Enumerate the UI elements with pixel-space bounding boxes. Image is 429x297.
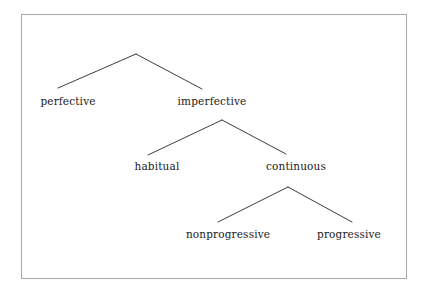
tree-node-continuous: continuous <box>266 160 326 172</box>
tree-node-imperfective: imperfective <box>178 95 247 107</box>
tree-node-habitual: habitual <box>135 160 180 172</box>
tree-node-nonprogressive: nonprogressive <box>186 228 270 240</box>
tree-node-perfective: perfective <box>40 95 95 107</box>
tree-node-progressive: progressive <box>317 228 381 240</box>
